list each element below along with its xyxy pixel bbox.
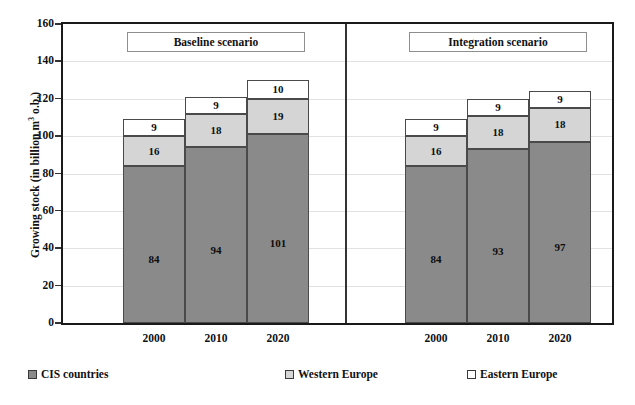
legend-item-cis: CIS countries xyxy=(28,368,108,380)
plot-inner: 84169941891011910841699318997189 Baselin… xyxy=(63,24,612,323)
bar-integration-2000: 84169 xyxy=(405,119,467,323)
bar-segment-value-label: 10 xyxy=(273,84,284,95)
bar-segment-east: 9 xyxy=(185,97,247,114)
scenario-title-integration: Integration scenario xyxy=(409,32,587,52)
bar-integration-2020: 97189 xyxy=(529,91,591,323)
bar-integration-2010: 93189 xyxy=(467,99,529,323)
bar-segment-value-label: 84 xyxy=(431,254,442,265)
bar-segment-value-label: 19 xyxy=(273,111,284,122)
bar-segment-cis: 97 xyxy=(529,142,591,323)
x-axis-tick-label: 2020 xyxy=(243,333,313,345)
bar-segment-west: 18 xyxy=(467,116,529,150)
bar-segment-west: 16 xyxy=(405,136,467,166)
bar-segment-value-label: 9 xyxy=(151,122,157,133)
bar-segment-value-label: 94 xyxy=(211,245,222,256)
legend-item-label: Western Europe xyxy=(298,368,378,380)
growing-stock-stacked-bar-chart: Growing stock (in billion m3 o.b.) 02040… xyxy=(0,0,635,405)
gridline xyxy=(63,61,612,62)
bar-segment-value-label: 93 xyxy=(493,246,504,257)
bar-segment-west: 19 xyxy=(247,99,309,135)
y-axis-tick-label: 120 xyxy=(0,93,54,105)
x-axis-tick-label: 2020 xyxy=(525,333,595,345)
y-axis-tick-label: 60 xyxy=(0,205,54,217)
legend-swatch-icon xyxy=(467,370,476,379)
y-axis-tick-label: 20 xyxy=(0,280,54,292)
x-axis-tick-label: 2010 xyxy=(181,333,251,345)
legend-item-west: Western Europe xyxy=(285,368,378,380)
chart-legend: CIS countriesWestern EuropeEastern Europ… xyxy=(0,368,635,390)
bar-segment-west: 16 xyxy=(123,136,185,166)
bar-segment-value-label: 9 xyxy=(495,102,501,113)
y-axis-tick-label: 80 xyxy=(0,168,54,180)
bar-segment-cis: 84 xyxy=(123,166,185,323)
bar-segment-cis: 101 xyxy=(247,134,309,323)
bar-segment-value-label: 9 xyxy=(213,100,219,111)
bar-segment-value-label: 16 xyxy=(431,146,442,157)
bar-segment-value-label: 9 xyxy=(557,94,563,105)
y-axis-tick-label: 160 xyxy=(0,18,54,30)
bar-segment-value-label: 101 xyxy=(270,238,287,249)
bar-segment-west: 18 xyxy=(185,114,247,148)
bar-segment-value-label: 18 xyxy=(211,125,222,136)
bar-segment-value-label: 18 xyxy=(493,127,504,138)
x-axis-tick-label: 2000 xyxy=(401,333,471,345)
legend-swatch-icon xyxy=(28,370,37,379)
legend-item-east: Eastern Europe xyxy=(467,368,557,380)
bar-baseline-2010: 94189 xyxy=(185,97,247,323)
bar-segment-value-label: 9 xyxy=(433,122,439,133)
plot-area: 84169941891011910841699318997189 Baselin… xyxy=(61,22,614,325)
bar-segment-east: 9 xyxy=(123,119,185,136)
y-axis-tick-label: 40 xyxy=(0,242,54,254)
bar-segment-cis: 94 xyxy=(185,147,247,323)
bar-baseline-2000: 84169 xyxy=(123,119,185,323)
bar-segment-value-label: 84 xyxy=(149,254,160,265)
bar-segment-cis: 93 xyxy=(467,149,529,323)
bar-segment-east: 9 xyxy=(405,119,467,136)
bar-segment-value-label: 18 xyxy=(555,119,566,130)
bar-segment-value-label: 16 xyxy=(149,146,160,157)
y-axis-tick-label: 0 xyxy=(0,317,54,329)
x-axis-tick-label: 2010 xyxy=(463,333,533,345)
bar-segment-west: 18 xyxy=(529,108,591,142)
y-axis-title-exponent: 3 xyxy=(27,117,36,121)
bar-segment-east: 9 xyxy=(529,91,591,108)
bar-segment-value-label: 97 xyxy=(555,242,566,253)
scenario-title-baseline: Baseline scenario xyxy=(127,32,305,52)
y-axis-tick-label: 140 xyxy=(0,55,54,67)
legend-item-label: CIS countries xyxy=(41,368,108,380)
legend-item-label: Eastern Europe xyxy=(480,368,557,380)
y-axis-tick-label: 100 xyxy=(0,130,54,142)
legend-swatch-icon xyxy=(285,370,294,379)
bar-baseline-2020: 1011910 xyxy=(247,80,309,323)
bar-segment-east: 9 xyxy=(467,99,529,116)
panel-divider xyxy=(345,24,347,323)
x-axis-tick-label: 2000 xyxy=(119,333,189,345)
bar-segment-cis: 84 xyxy=(405,166,467,323)
bar-segment-east: 10 xyxy=(247,80,309,99)
